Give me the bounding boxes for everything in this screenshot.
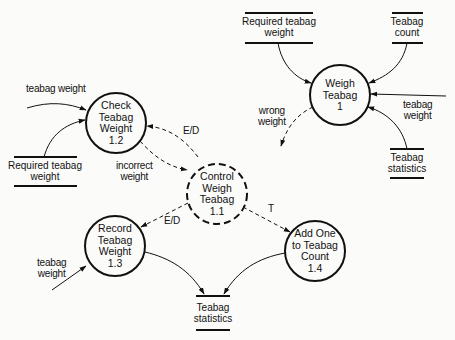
process-label-line: Teabag — [200, 194, 234, 206]
flow-statistics-to-weigh — [368, 107, 407, 149]
flow-label-line: incorrect — [116, 160, 153, 171]
store-label-line: weight — [8, 171, 82, 182]
flow-label-line: teabag — [37, 257, 66, 268]
flow-label-line: teabag weight — [26, 83, 86, 94]
process-label-line: Count — [292, 251, 338, 263]
flow-label-line: E/D — [183, 125, 199, 136]
store-label-line: Teabag — [388, 152, 426, 163]
flow-required-weight-to-check — [44, 120, 85, 157]
process-label-line: Record — [98, 223, 132, 235]
flow-label-incorrect-weight: incorrect weight — [116, 160, 153, 182]
process-record-teabag-weight: Record Teabag Weight 1.3 — [98, 223, 132, 269]
flow-t-to-add-one — [243, 207, 290, 232]
store-required-weight-left-label: Required teabag weight — [8, 160, 82, 182]
flow-teabag-weight-to-check — [27, 104, 86, 110]
process-add-one-teabag-count: Add One to Teabag Count 1.4 — [292, 228, 338, 274]
flow-label-line: weight — [258, 116, 286, 127]
flow-label-teabag-weight-p1: teabag weight — [403, 99, 432, 121]
store-label-line: statistics — [194, 313, 232, 324]
process-number: 1 — [323, 101, 357, 113]
store-teabag-statistics-top-label: Teabag statistics — [388, 152, 426, 174]
store-label-line: Required teabag — [242, 16, 316, 27]
store-label-line: Required teabag — [8, 160, 82, 171]
process-label-line: Weight — [99, 123, 133, 135]
process-label-line: Control — [200, 171, 234, 183]
store-label-line: count — [391, 27, 424, 38]
flow-label-teabag-weight-p12: teabag weight — [26, 83, 86, 94]
flow-label-line: E/D — [164, 215, 180, 226]
process-label-line: Check — [99, 100, 133, 112]
process-number: 1.4 — [292, 263, 338, 275]
store-teabag-statistics-bottom-label: Teabag statistics — [194, 302, 232, 324]
flow-record-to-statistics — [145, 252, 204, 294]
process-number: 1.1 — [200, 206, 234, 218]
flow-label-line: T — [268, 203, 274, 214]
store-label-line: statistics — [388, 163, 426, 174]
process-control-weigh-teabag: Control Weigh Teabag 1.1 — [200, 171, 234, 217]
store-label-line: Teabag — [194, 302, 232, 313]
process-label-line: Add One — [292, 228, 338, 240]
flow-label-wrong-weight: wrong weight — [258, 105, 286, 127]
flow-label-t-to-add-one: T — [268, 203, 274, 214]
flow-label-ed-to-check: E/D — [183, 125, 199, 136]
process-number: 1.2 — [99, 135, 133, 147]
flow-teabag-weight-to-weigh — [371, 94, 446, 96]
store-teabag-count-label: Teabag count — [391, 16, 424, 38]
store-label-line: weight — [242, 27, 316, 38]
flow-label-ed-to-record: E/D — [164, 215, 180, 226]
flow-label-line: wrong — [258, 105, 286, 116]
flow-required-weight-to-weigh — [278, 43, 311, 83]
process-check-teabag-weight: Check Teabag Weight 1.2 — [99, 100, 133, 146]
store-label-line: Teabag — [391, 16, 424, 27]
process-weigh-teabag: Weigh Teabag 1 — [323, 78, 357, 113]
flow-label-line: teabag — [403, 99, 432, 110]
flow-label-line: weight — [116, 171, 153, 182]
process-number: 1.3 — [98, 258, 132, 270]
flow-add-one-to-statistics — [224, 253, 285, 294]
flow-label-teabag-weight-p13: teabag weight — [37, 257, 66, 279]
flow-label-line: weight — [403, 110, 432, 121]
process-label-line: Weigh — [323, 78, 357, 90]
flow-label-line: weight — [37, 268, 66, 279]
flow-count-to-weigh — [369, 43, 407, 83]
process-label-line: Weight — [98, 246, 132, 258]
store-required-weight-top-label: Required teabag weight — [242, 16, 316, 38]
